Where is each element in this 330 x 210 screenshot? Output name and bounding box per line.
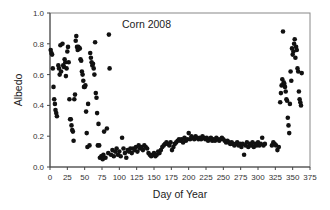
- x-tick-label: 0: [48, 173, 53, 182]
- y-tick-label: 0.4: [33, 101, 45, 110]
- data-point: [53, 102, 58, 107]
- x-tick-label: 325: [269, 173, 283, 182]
- x-tick-label: 200: [182, 173, 196, 182]
- data-point: [51, 66, 56, 71]
- data-point: [118, 154, 123, 159]
- x-tick-label: 100: [113, 173, 127, 182]
- x-axis-ticks: 0255075100125150175200225250275300325350…: [48, 167, 317, 182]
- data-point: [242, 152, 247, 157]
- data-point: [293, 55, 298, 60]
- data-point: [107, 32, 112, 37]
- x-tick-label: 50: [80, 173, 89, 182]
- data-point: [79, 58, 84, 63]
- data-point: [73, 92, 78, 97]
- data-point: [288, 102, 293, 107]
- x-tick-label: 275: [234, 173, 248, 182]
- data-point: [295, 48, 300, 53]
- data-point: [124, 156, 129, 161]
- data-point: [71, 139, 76, 144]
- y-tick-label: 0.6: [33, 71, 45, 80]
- data-point: [69, 123, 74, 128]
- data-point: [292, 37, 297, 42]
- x-tick-label: 350: [286, 173, 300, 182]
- data-point: [117, 149, 122, 154]
- y-axis-ticks: 0.00.20.40.60.81.0: [33, 9, 50, 172]
- data-point: [283, 89, 288, 94]
- x-tick-label: 75: [98, 173, 107, 182]
- data-point: [87, 143, 92, 148]
- data-point: [69, 117, 74, 122]
- y-tick-label: 0.2: [33, 132, 45, 141]
- y-tick-label: 0.0: [33, 163, 45, 172]
- data-point: [107, 66, 112, 71]
- data-point: [84, 109, 89, 114]
- data-point: [263, 142, 268, 147]
- data-point: [288, 69, 293, 74]
- x-tick-label: 125: [130, 173, 144, 182]
- data-point: [81, 79, 86, 84]
- x-tick-label: 225: [199, 173, 213, 182]
- data-point: [91, 62, 96, 67]
- data-point: [86, 102, 91, 107]
- data-point: [105, 126, 110, 131]
- data-point: [297, 89, 302, 94]
- data-point: [51, 85, 56, 90]
- data-point: [96, 122, 101, 127]
- x-tick-label: 375: [303, 173, 317, 182]
- data-point: [278, 100, 283, 105]
- data-point: [121, 146, 126, 151]
- data-point: [50, 52, 55, 57]
- data-point: [97, 143, 102, 148]
- y-axis-title: Albedo: [12, 73, 24, 106]
- data-point: [145, 146, 150, 151]
- data-point: [59, 69, 64, 74]
- data-point: [120, 135, 125, 140]
- data-point: [299, 71, 304, 76]
- data-point: [60, 42, 65, 47]
- data-point: [92, 72, 97, 77]
- data-point: [78, 46, 83, 51]
- data-point: [93, 40, 98, 45]
- data-point: [168, 140, 173, 145]
- data-point: [299, 103, 304, 108]
- albedo-scatter-chart: 0255075100125150175200225250275300325350…: [0, 0, 330, 210]
- data-point: [89, 55, 94, 60]
- x-tick-label: 250: [217, 173, 231, 182]
- data-point: [94, 95, 99, 100]
- data-point: [84, 131, 89, 136]
- data-point: [72, 97, 77, 102]
- x-tick-label: 150: [147, 173, 161, 182]
- data-point: [83, 83, 88, 88]
- data-point: [80, 72, 85, 77]
- data-point: [103, 156, 108, 161]
- data-point: [65, 49, 70, 54]
- data-point: [112, 154, 117, 159]
- data-point: [55, 114, 60, 119]
- data-point: [283, 85, 288, 90]
- y-tick-label: 1.0: [33, 9, 45, 18]
- data-point: [260, 135, 265, 140]
- x-tick-label: 25: [63, 173, 72, 182]
- data-point: [88, 51, 93, 56]
- x-axis-title: Day of Year: [153, 188, 208, 200]
- data-point: [71, 129, 76, 134]
- data-point: [289, 79, 294, 84]
- x-tick-label: 175: [165, 173, 179, 182]
- data-point: [281, 29, 286, 34]
- data-point: [74, 34, 79, 39]
- data-point: [286, 115, 291, 120]
- data-point: [279, 91, 284, 96]
- y-tick-label: 0.8: [33, 40, 45, 49]
- data-point: [94, 91, 99, 96]
- data-point: [64, 66, 69, 71]
- x-tick-label: 300: [251, 173, 265, 182]
- data-points: [48, 29, 304, 161]
- data-point: [66, 45, 71, 50]
- data-point: [67, 97, 72, 102]
- data-point: [64, 74, 69, 79]
- chart-title: Corn 2008: [122, 18, 171, 30]
- data-point: [52, 97, 57, 102]
- data-point: [277, 145, 282, 150]
- data-point: [91, 66, 96, 71]
- data-point: [287, 131, 292, 136]
